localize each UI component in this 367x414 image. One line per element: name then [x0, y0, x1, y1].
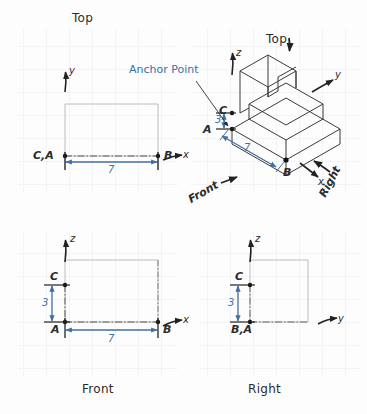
front-view-point-A-label: A	[51, 324, 60, 335]
right-view-z-axis	[250, 240, 251, 262]
iso-point-B	[283, 157, 288, 162]
top-view-dim-width-label: 7	[108, 165, 114, 175]
iso-point-A-label: A	[203, 124, 212, 135]
top-view-y-axis-label: y	[69, 66, 75, 76]
iso-point-B-label: B	[283, 167, 291, 178]
top-view-point-CA-label: C,A	[33, 150, 54, 161]
front-view-point-B-label: B	[163, 324, 171, 335]
front-view-z-axis-label: z	[70, 234, 75, 244]
iso-z-axis	[232, 53, 233, 75]
front-view-z-axis	[65, 240, 66, 262]
top-view-point-B-label: B	[164, 150, 172, 161]
iso-y-axis-label: y	[335, 70, 341, 80]
top-view-y-axis	[65, 72, 66, 92]
front-view-point-C-label: C	[50, 271, 58, 282]
front-view-x-axis-label: x	[183, 315, 189, 325]
top-view-x-axis-label: x	[183, 150, 189, 160]
iso-dim-height-label: 3	[215, 115, 221, 125]
right-view-z-axis-label: z	[255, 234, 260, 244]
grid-top-view	[18, 28, 178, 193]
iso-dim-depth-label: 7	[244, 143, 250, 153]
grid-right-view	[200, 232, 360, 377]
right-view-point-BA-label: B,A	[231, 324, 252, 335]
iso-top-direction-label: Top	[266, 33, 287, 45]
front-view-dim-height-label: 3	[42, 298, 48, 308]
right-view-point-C-label: C	[235, 271, 243, 282]
top-view-title: Top	[72, 12, 93, 24]
iso-z-axis-label: z	[236, 48, 241, 58]
right-view-dim-height-label: 3	[228, 298, 234, 308]
right-view-y-axis-label: y	[338, 314, 344, 324]
anchor-point-label: Anchor Point	[129, 64, 199, 75]
front-view-title: Front	[82, 383, 114, 395]
iso-top-direction-arrow	[289, 38, 290, 51]
front-view-dim-width-label: 7	[108, 334, 114, 344]
right-view-title: Right	[248, 383, 281, 395]
